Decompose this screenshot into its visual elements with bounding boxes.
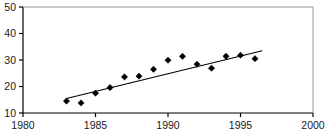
- data-point-marker: [252, 56, 258, 62]
- x-tick-label: 1990: [156, 119, 180, 131]
- data-point-marker: [107, 84, 113, 90]
- data-point-marker: [208, 65, 214, 71]
- data-point-marker: [78, 100, 84, 106]
- y-tick-label: 40: [4, 27, 16, 39]
- x-tick-label: 1995: [229, 119, 253, 131]
- y-tick-label: 10: [4, 107, 16, 119]
- x-tick-label: 1985: [84, 119, 108, 131]
- y-axis-tick-labels: 1020304050: [4, 1, 16, 119]
- scatter-chart: 1020304050 19801985199019952000: [0, 0, 328, 135]
- chart-canvas: 1020304050 19801985199019952000: [0, 0, 328, 135]
- x-axis-tick-labels: 19801985199019952000: [11, 119, 325, 131]
- y-tick-label: 30: [4, 54, 16, 66]
- data-point-marker: [121, 74, 127, 80]
- data-point-marker: [179, 53, 185, 59]
- y-tick-label: 50: [4, 1, 16, 13]
- y-tick-label: 20: [4, 80, 16, 92]
- data-point-marker: [223, 53, 229, 59]
- data-point-marker: [150, 66, 156, 72]
- x-tick-label: 2000: [301, 119, 325, 131]
- data-point-marker: [136, 73, 142, 79]
- data-point-marker: [165, 57, 171, 63]
- x-tick-label: 1980: [11, 119, 35, 131]
- data-points: [63, 52, 258, 106]
- data-point-marker: [63, 98, 69, 104]
- data-point-marker: [237, 52, 243, 58]
